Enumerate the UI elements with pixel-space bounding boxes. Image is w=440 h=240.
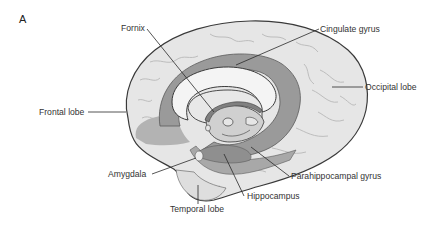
label-amygdala: Amygdala [108,169,146,179]
amygdala-structure [195,151,203,161]
label-cingulate-gyrus: Cingulate gyrus [320,24,380,34]
label-hippocampus: Hippocampus [247,191,300,201]
label-frontal-lobe: Frontal lobe [39,107,84,117]
label-occipital-lobe: Occipital lobe [365,82,417,92]
label-parahippocampal-gyrus: Parahippocampal gyrus [291,171,381,181]
label-temporal-lobe: Temporal lobe [170,204,224,214]
label-fornix: Fornix [121,23,145,33]
